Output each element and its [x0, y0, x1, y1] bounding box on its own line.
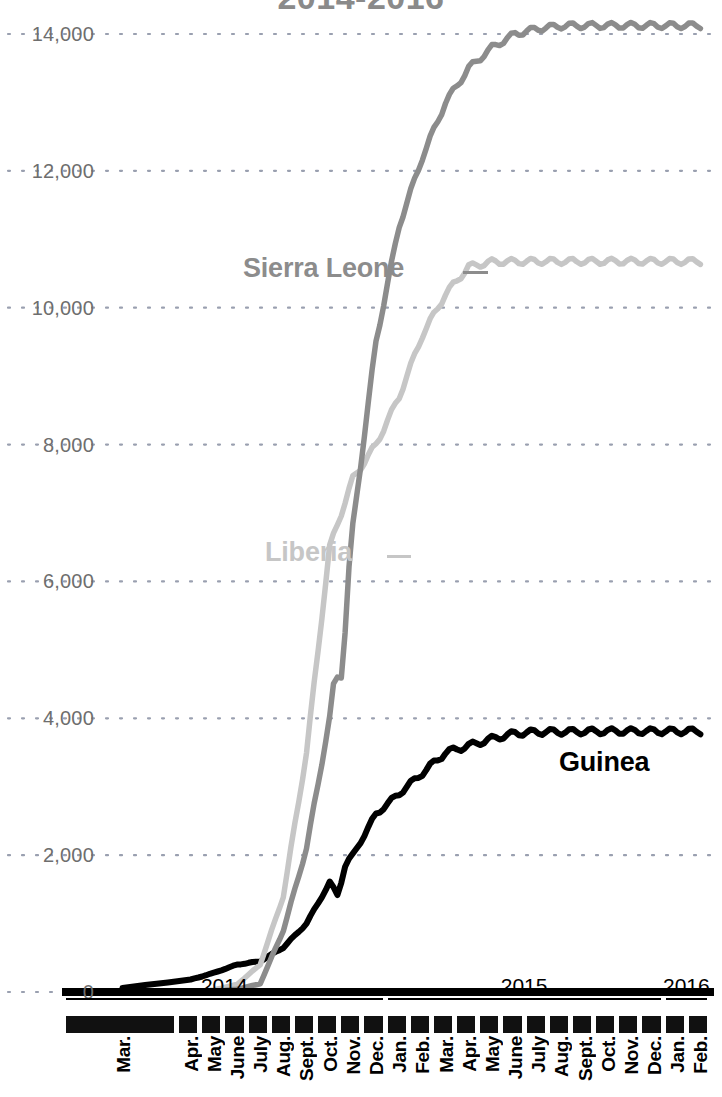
x-axis-tick-block	[272, 1016, 290, 1033]
x-axis-month-label: Nov.	[621, 1036, 643, 1075]
plot-svg	[0, 0, 722, 1000]
x-axis-tick-block	[666, 1016, 684, 1033]
x-axis-year-markers: 201420152016	[0, 986, 722, 1012]
x-axis-year-rule	[388, 998, 661, 1000]
leader-line-liberia	[387, 555, 411, 558]
x-axis-month-label: May	[482, 1036, 504, 1072]
series-label-sierra-leone: Sierra Leone	[243, 253, 404, 284]
y-axis-tick-label: 10,000	[32, 296, 94, 319]
x-axis-tick-block	[364, 1016, 382, 1033]
x-axis-month-label: June	[227, 1036, 249, 1079]
x-axis-month-label: Jan.	[389, 1036, 411, 1073]
y-axis-tick-label: 14,000	[32, 23, 94, 46]
x-axis-tick-block	[341, 1016, 359, 1033]
y-axis-tick-label: 12,000	[32, 159, 94, 182]
x-axis-month-label: Oct.	[320, 1036, 342, 1072]
x-axis-tick-block	[225, 1016, 243, 1033]
x-axis-month-label: Aug.	[273, 1036, 295, 1077]
x-axis-month-label: Aug.	[551, 1036, 573, 1077]
x-axis-tick-block	[66, 1016, 174, 1033]
x-axis-month-label: Sept.	[296, 1036, 318, 1081]
y-axis-tick-label: 4,000	[43, 707, 94, 730]
x-axis-tick-block	[573, 1016, 591, 1033]
x-axis-tick-block	[202, 1016, 220, 1033]
x-axis-month-label: July	[250, 1036, 272, 1073]
chart-figure: 2014-2016 02,0004,0006,0008,00010,00012,…	[0, 0, 722, 1097]
x-axis-year-rule	[666, 998, 707, 1000]
x-axis-tick-blocks	[0, 1016, 722, 1033]
x-axis-tick-block	[179, 1016, 197, 1033]
x-axis-month-label: Feb.	[412, 1036, 434, 1074]
x-axis-tick-block	[457, 1016, 475, 1033]
x-axis-year-rule	[66, 998, 383, 1000]
y-axis-tick-label: 6,000	[43, 570, 94, 593]
x-axis-month-label: Feb.	[690, 1036, 712, 1074]
x-axis-tick-block	[480, 1016, 498, 1033]
x-axis-year-label: 2014	[201, 974, 248, 998]
x-axis-tick-block	[596, 1016, 614, 1033]
y-axis-tick-label: 2,000	[43, 844, 94, 867]
series-line-liberia	[123, 258, 701, 992]
x-axis-month-label: May	[204, 1036, 226, 1072]
x-axis-tick-block	[318, 1016, 336, 1033]
x-axis-tick-block	[388, 1016, 406, 1033]
x-axis-month-labels: Mar.Apr.MayJuneJulyAug.Sept.Oct.Nov.Dec.…	[0, 1036, 722, 1097]
series-label-liberia: Liberia	[265, 537, 352, 568]
x-axis-tick-block	[527, 1016, 545, 1033]
x-axis-month-label: Mar.	[436, 1036, 458, 1073]
y-axis-labels: 02,0004,0006,0008,00010,00012,00014,000	[0, 0, 94, 1000]
x-axis-tick-block	[689, 1016, 707, 1033]
x-axis-month-label: Sept.	[575, 1036, 597, 1081]
x-axis-month-label: Mar.	[113, 1036, 135, 1073]
x-axis-month-label: June	[505, 1036, 527, 1079]
y-axis-tick-label: 8,000	[43, 433, 94, 456]
x-axis-month-label: Apr.	[459, 1036, 481, 1072]
x-axis-year-label: 2015	[501, 974, 548, 998]
x-axis-tick-block	[249, 1016, 267, 1033]
x-axis-month-label: Dec.	[366, 1036, 388, 1075]
x-axis-tick-block	[503, 1016, 521, 1033]
x-axis-month-label: Oct.	[598, 1036, 620, 1072]
x-axis-tick-block	[411, 1016, 429, 1033]
x-axis-month-label: July	[528, 1036, 550, 1073]
x-axis-month-label: Nov.	[343, 1036, 365, 1075]
leader-line-sierra-leone	[463, 271, 488, 274]
x-axis: 201420152016 Mar.Apr.MayJuneJulyAug.Sept…	[0, 1000, 722, 1097]
x-axis-tick-block	[550, 1016, 568, 1033]
x-axis-tick-block	[619, 1016, 637, 1033]
x-axis-month-label: Apr.	[181, 1036, 203, 1072]
x-axis-month-label: Dec.	[644, 1036, 666, 1075]
series-line-sierra-leone	[123, 22, 701, 992]
x-axis-tick-block	[434, 1016, 452, 1033]
x-axis-tick-block	[642, 1016, 660, 1033]
x-axis-year-label: 2016	[663, 974, 710, 998]
plot-area	[0, 0, 722, 1000]
series-label-guinea: Guinea	[559, 747, 649, 778]
x-axis-month-label: Jan.	[667, 1036, 689, 1073]
x-axis-tick-block	[295, 1016, 313, 1033]
